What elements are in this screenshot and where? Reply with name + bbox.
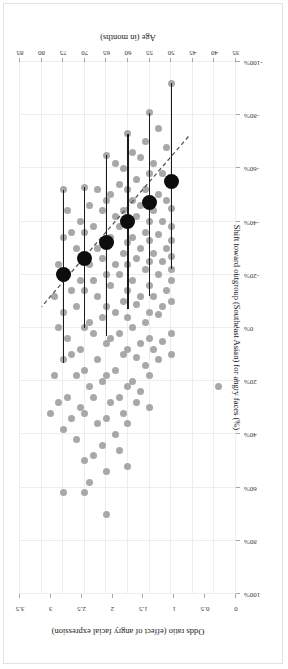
binned-mean-marker — [164, 174, 179, 189]
secondary-tick — [19, 594, 20, 598]
secondary-tick-label: 1 — [159, 605, 189, 613]
secondary-tick-label: 2.5 — [67, 605, 97, 613]
secondary-tick — [81, 594, 82, 598]
y-tick-label: 20% — [244, 378, 278, 386]
y-tick — [236, 114, 240, 115]
y-tick-label: -40% — [244, 219, 278, 227]
secondary-axis-title: Odds ratio (effect of angry facial expre… — [20, 627, 236, 637]
y-tick-label: 80% — [244, 538, 278, 546]
y-tick — [236, 61, 240, 62]
y-tick-label: -60% — [244, 165, 278, 173]
y-tick-label: 0% — [244, 325, 278, 333]
binned-mean-marker — [56, 267, 71, 282]
secondary-tick-label: 0 — [221, 605, 251, 613]
secondary-tick-label: 0.5 — [190, 605, 220, 613]
secondary-tick — [173, 594, 174, 598]
y-tick-label: 40% — [244, 431, 278, 439]
secondary-tick — [50, 594, 51, 598]
y-tick-label: -80% — [244, 112, 278, 120]
secondary-tick-label: 1.5 — [128, 605, 158, 613]
y-tick — [236, 540, 240, 541]
secondary-tick — [235, 594, 236, 598]
chart-figure: 3540455055606570758085-100%-80%-60%-40%-… — [0, 0, 288, 669]
x-tick-label: 85 — [5, 49, 35, 57]
secondary-tick — [204, 594, 205, 598]
y-tick — [236, 487, 240, 488]
secondary-tick-label: 3.5 — [5, 605, 35, 613]
secondary-tick — [112, 594, 113, 598]
secondary-tick-label: 3 — [36, 605, 66, 613]
y-tick-label: 100% — [244, 591, 278, 599]
figure-frame: 3540455055606570758085-100%-80%-60%-40%-… — [3, 3, 283, 664]
x-axis-title: Age (in months) — [20, 33, 236, 43]
y-tick-label: -100% — [244, 59, 278, 67]
y-tick-label: 60% — [244, 485, 278, 493]
y-tick — [236, 593, 240, 594]
plot-area — [20, 62, 236, 594]
secondary-tick — [142, 594, 143, 598]
y-tick — [236, 167, 240, 168]
secondary-tick-label: 2 — [98, 605, 128, 613]
y-tick-label: -20% — [244, 272, 278, 280]
